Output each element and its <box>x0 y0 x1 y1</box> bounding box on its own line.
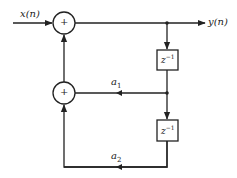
delay-1-label: z−1 <box>161 53 175 65</box>
coef-a1-label: a1 <box>111 76 121 90</box>
coef-a2-label: a2 <box>111 150 121 164</box>
input-label: x(n) <box>20 8 40 19</box>
delay-2-label: z−1 <box>161 124 175 136</box>
output-label: y(n) <box>208 16 228 27</box>
adder-top-symbol: + <box>60 16 68 27</box>
adder-bottom-symbol: + <box>60 86 68 97</box>
